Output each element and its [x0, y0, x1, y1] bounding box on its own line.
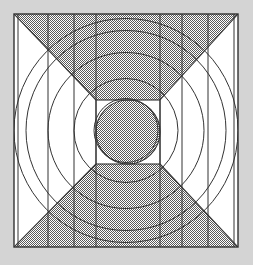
figure-canvas — [0, 0, 253, 265]
geometric-figure — [0, 0, 253, 265]
